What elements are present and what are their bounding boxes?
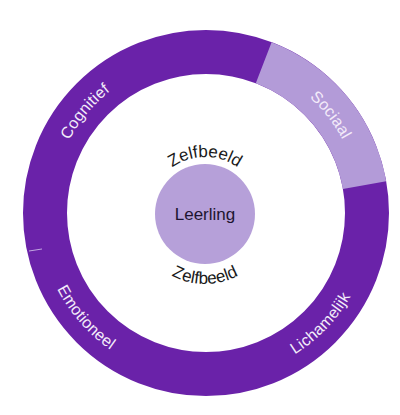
- center-label: Leerling: [175, 205, 236, 224]
- self-image-label-bottom: Zelfbeeld: [170, 262, 241, 288]
- development-ring-diagram: Cognitief Sociaal Lichamelijk Emotioneel…: [0, 0, 400, 415]
- sociaal-segment: [256, 42, 386, 189]
